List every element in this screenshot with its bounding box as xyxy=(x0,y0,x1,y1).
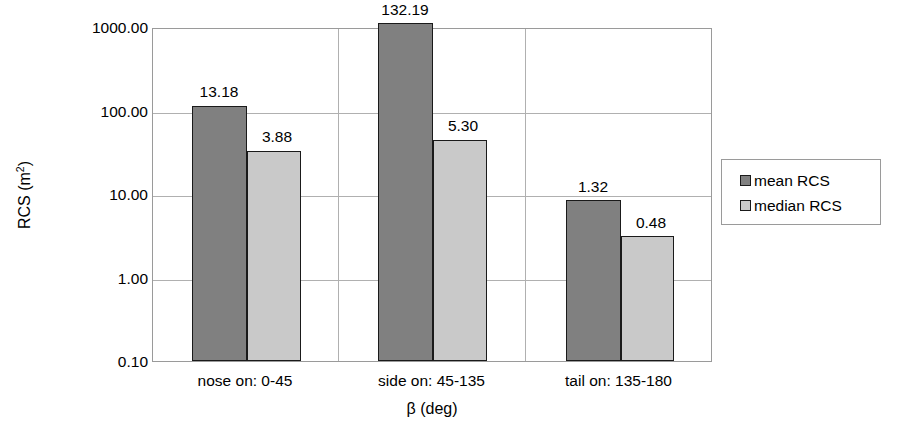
value-label-median-nose-on: 3.88 xyxy=(262,128,292,146)
y-axis-title-tail: ) xyxy=(16,161,33,166)
y-axis-title-text: RCS (m xyxy=(16,172,33,229)
plot-area: 13.18 3.88 132.19 5.30 1.32 0.48 xyxy=(152,28,712,362)
legend: mean RCS median RCS xyxy=(721,159,881,225)
category-separator xyxy=(338,29,339,361)
legend-label-mean: mean RCS xyxy=(754,172,830,190)
value-label-median-tail-on: 0.48 xyxy=(636,214,666,232)
rcs-bar-chart: 1000.00 100.00 10.00 1.00 0.10 RCS (m2) … xyxy=(0,0,911,447)
y-tick-label: 100.00 xyxy=(6,104,148,120)
x-tick-label-tail-on: tail on: 135-180 xyxy=(525,372,712,390)
value-label-mean-side-on: 132.19 xyxy=(381,1,428,19)
value-label-mean-tail-on: 1.32 xyxy=(578,178,608,196)
y-tick-label: 0.10 xyxy=(6,354,148,370)
y-axis-title: RCS (m2) xyxy=(14,161,34,229)
legend-item-median-rcs[interactable]: median RCS xyxy=(740,193,880,218)
x-axis-title: β (deg) xyxy=(152,400,712,418)
bar-mean-nose-on[interactable] xyxy=(192,106,247,361)
y-axis-title-exponent: 2 xyxy=(14,166,26,172)
legend-item-mean-rcs[interactable]: mean RCS xyxy=(740,168,880,193)
bar-median-side-on[interactable] xyxy=(433,140,487,361)
legend-label-median: median RCS xyxy=(754,197,842,215)
legend-swatch-icon-mean xyxy=(740,175,751,186)
bar-median-nose-on[interactable] xyxy=(247,151,301,361)
x-tick-label-side-on: side on: 45-135 xyxy=(338,372,525,390)
category-separator xyxy=(525,29,526,361)
legend-swatch-icon-median xyxy=(740,200,751,211)
y-tick-label: 1000.00 xyxy=(6,20,148,36)
bar-median-tail-on[interactable] xyxy=(621,236,674,361)
value-label-median-side-on: 5.30 xyxy=(448,117,478,135)
value-label-mean-nose-on: 13.18 xyxy=(200,83,239,101)
x-tick-label-nose-on: nose on: 0-45 xyxy=(152,372,338,390)
bar-mean-tail-on[interactable] xyxy=(566,200,621,361)
y-tick-label: 1.00 xyxy=(6,271,148,287)
bar-mean-side-on[interactable] xyxy=(378,23,433,361)
